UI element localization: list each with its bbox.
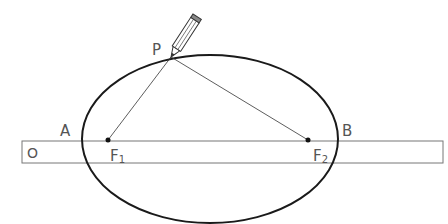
focus-f2-point bbox=[306, 138, 311, 143]
ellipse-diagram: P A B O F1 F2 bbox=[0, 0, 448, 224]
label-f2: F2 bbox=[313, 147, 328, 165]
label-p: P bbox=[152, 41, 161, 59]
label-o: O bbox=[27, 145, 38, 161]
string-p-f2 bbox=[171, 57, 308, 140]
focus-f1-point bbox=[106, 138, 111, 143]
label-b: B bbox=[342, 122, 352, 140]
pencil-icon bbox=[167, 14, 202, 60]
label-a: A bbox=[60, 122, 71, 140]
label-f1: F1 bbox=[110, 147, 125, 165]
